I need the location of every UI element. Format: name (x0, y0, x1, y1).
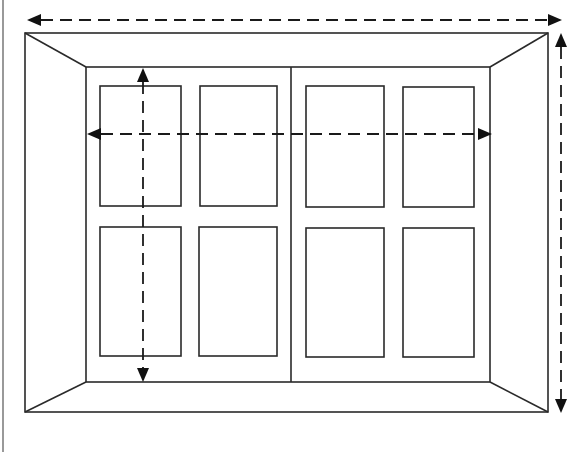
outer-width-arrow (27, 14, 562, 26)
arrowhead-left-icon (27, 14, 41, 26)
window-pane (200, 86, 277, 206)
arrowhead-down-icon (137, 368, 149, 382)
window-pane (306, 86, 384, 207)
window-pane (403, 87, 474, 207)
window-pane (199, 227, 277, 356)
arrowhead-left-icon (87, 128, 101, 140)
inner-width-arrow (87, 128, 492, 140)
frame-corner-bevel (25, 382, 86, 412)
window-pane (306, 228, 384, 357)
window-measurement-diagram (0, 0, 582, 452)
window-pane (100, 86, 181, 206)
arrowhead-right-icon (548, 14, 562, 26)
outer-height-arrow (555, 33, 567, 413)
window-frame (25, 33, 548, 412)
frame-corner-bevel (490, 33, 548, 67)
arrowhead-up-icon (555, 33, 567, 47)
inner-height-arrow (137, 68, 149, 382)
window-pane (100, 227, 181, 356)
arrowhead-down-icon (555, 399, 567, 413)
dimension-arrows (27, 14, 567, 413)
frame-corner-bevel (490, 382, 548, 412)
window-pane (403, 228, 474, 357)
window-panes (100, 86, 474, 357)
frame-corner-bevel (25, 33, 86, 67)
arrowhead-up-icon (137, 68, 149, 82)
outer-frame (25, 33, 548, 412)
inner-frame (86, 67, 490, 382)
